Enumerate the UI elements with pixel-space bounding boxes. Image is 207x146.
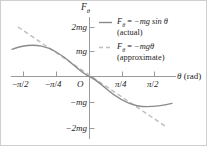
legend-note-actual: (actual) [117,28,168,37]
y-tick-label-neg-mg: −mg [51,98,87,107]
legend-equation-approximate: Fθ = −mgθ [117,42,164,53]
x-axis-title-symbol: θ [177,71,181,81]
legend-equation-actual: Fθ = −mg sin θ [117,17,168,28]
y-tick-label-2mg: 2mg [51,23,87,32]
x-tick-label-neg-pi-over-2: −π/2 [12,80,29,89]
x-axis-title: θ (rad) [177,72,201,81]
origin-label: O [77,80,84,89]
legend-note-approximate: (approximate) [117,53,164,62]
tick-denominator: 2 [154,79,159,89]
tick-denominator: 4 [122,79,127,89]
y-tick-label-mg: mg [51,47,87,56]
physics-figure-restoring-force: Fθ θ (rad) −π/2 −π/4 π/4 π/2 O 2mg mg −m… [0,0,207,146]
tick-denominator: 2 [24,79,29,89]
y-axis-title-subscript: θ [87,7,90,14]
legend-entry-actual: Fθ = −mg sin θ (actual) [117,17,168,38]
x-tick-label-pi-over-4: π/4 [115,80,127,89]
x-tick-label-pi-over-2: π/2 [147,80,159,89]
x-tick-label-neg-pi-over-4: −π/4 [45,80,62,89]
legend-entry-approximate: Fθ = −mgθ (approximate) [117,42,164,63]
y-axis-title: Fθ [81,3,90,14]
y-tick-label-neg-2mg: −2mg [47,124,87,133]
x-axis-title-unit: (rad) [184,71,202,81]
tick-denominator: 4 [57,79,62,89]
